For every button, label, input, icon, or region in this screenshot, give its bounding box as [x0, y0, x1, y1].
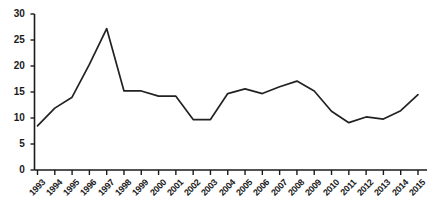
chart-plot-area: [0, 0, 441, 209]
y-axis-tick-label: 20: [3, 61, 25, 71]
line-chart: 051015202530 199319941995199619971998199…: [0, 0, 441, 209]
y-axis-tick-label: 25: [3, 35, 25, 45]
data-series-line: [38, 29, 419, 126]
y-axis-tick-label: 30: [3, 9, 25, 19]
y-axis-tick-label: 15: [3, 87, 25, 97]
y-axis-tick-label: 5: [3, 139, 25, 149]
y-axis-tick-label: 0: [3, 165, 25, 175]
y-axis-tick-label: 10: [3, 113, 25, 123]
